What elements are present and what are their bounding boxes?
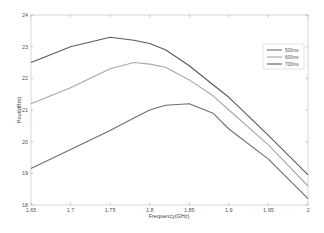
plot-area	[31, 15, 308, 205]
legend-label: 700ms	[285, 62, 299, 67]
x-tick-label: 1.7	[67, 207, 75, 213]
y-tick-label: 18	[22, 202, 28, 208]
y-tick-label: 20	[22, 139, 28, 145]
line-chart: 1.651.71.751.81.851.91.952 1819202122232…	[0, 0, 324, 233]
y-tick-label: 21	[22, 107, 28, 113]
x-tick-label: 1.75	[105, 207, 116, 213]
y-tick-label: 23	[22, 44, 28, 50]
x-tick-label: 2	[306, 207, 309, 213]
x-axis-label: Frequency(GHz)	[149, 213, 190, 219]
legend-label: 600ms	[285, 55, 299, 60]
y-tick-label: 19	[22, 170, 28, 176]
legend: 500ms600ms700ms	[263, 44, 304, 69]
y-tick-label: 22	[22, 75, 28, 81]
x-tick-label: 1.9	[225, 207, 233, 213]
y-tick-label: 24	[22, 12, 28, 18]
x-tick-label: 1.95	[263, 207, 274, 213]
legend-label: 500ms	[285, 48, 299, 53]
y-axis-label: Pout(dBm)	[16, 97, 22, 123]
